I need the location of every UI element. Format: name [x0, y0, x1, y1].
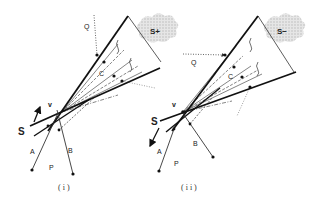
- point-b-end: [211, 155, 214, 158]
- point-b-mid: [189, 123, 192, 126]
- a-label: A: [157, 148, 162, 155]
- squiggle-arrow-1: [117, 40, 119, 54]
- panel-i: S+ Q C v S: [18, 13, 178, 192]
- s-label: S: [151, 116, 158, 127]
- squiggle-arrow-2: [257, 62, 259, 76]
- point-upper: [223, 53, 226, 56]
- a-label: A: [30, 148, 35, 155]
- point-upper: [95, 53, 98, 56]
- b-label: B: [193, 140, 198, 147]
- vertex-v: [181, 110, 185, 114]
- v-label: v: [172, 101, 176, 108]
- panel-ii: S− Q C v S: [150, 13, 305, 192]
- p-label: P: [49, 164, 54, 171]
- point-b-end: [71, 172, 74, 175]
- q-dotted-line: [94, 15, 97, 55]
- v-label: v: [48, 101, 52, 108]
- s-direction-arrow: [150, 128, 159, 146]
- diagram-figure: S+ Q C v S: [0, 0, 312, 201]
- point-c-upper: [102, 60, 105, 63]
- p-label: P: [174, 160, 179, 167]
- point-a-end: [30, 168, 33, 171]
- caption-i: (i): [58, 183, 72, 192]
- leg-a: [32, 113, 58, 170]
- leg-b: [182, 112, 213, 157]
- q-label: Q: [84, 23, 90, 31]
- s-thick-line: [30, 68, 160, 126]
- s-direction-arrow: [34, 107, 40, 122]
- region-label: S−: [277, 27, 287, 36]
- point-c-lower: [240, 75, 243, 78]
- b-label: B: [68, 147, 73, 154]
- region-label: S+: [150, 27, 160, 36]
- dashed-b-link: [59, 96, 96, 130]
- crossing-thick-line: [166, 88, 220, 132]
- c-label: C: [228, 73, 233, 80]
- point-a-mid: [173, 128, 176, 131]
- ray-fan: [183, 46, 262, 112]
- squiggle-arrow-1: [250, 38, 252, 52]
- caption-ii: (ii): [181, 183, 199, 192]
- q-label: Q: [191, 59, 197, 67]
- point-c-lower: [112, 74, 115, 77]
- upper-thick-line: [48, 16, 128, 131]
- point-a-mid: [47, 125, 50, 128]
- s-label: S: [18, 126, 25, 137]
- point-b-mid: [58, 129, 61, 132]
- point-lower: [120, 79, 123, 82]
- upper-thick-line: [172, 16, 258, 131]
- point-a-end: [157, 169, 160, 172]
- c-label: C: [99, 70, 104, 77]
- point-c-upper: [232, 65, 235, 68]
- q-dotted-line: [183, 54, 225, 55]
